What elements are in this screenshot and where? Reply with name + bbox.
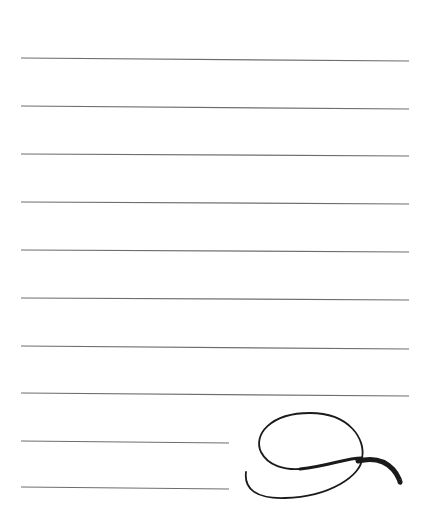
ruled-line: [21, 298, 409, 300]
ruled-line: [21, 393, 409, 396]
ruled-line: [21, 58, 409, 61]
ruled-line: [21, 106, 409, 109]
ruled-lines: [21, 58, 409, 489]
ruled-line: [21, 154, 409, 156]
ruled-line: [21, 250, 409, 252]
ruled-line: [21, 441, 229, 443]
ruled-line: [21, 346, 409, 349]
ruled-line: [21, 202, 409, 204]
notepad-page: [0, 0, 429, 523]
calligraphic-flourish-icon: [246, 413, 400, 498]
ruled-line: [21, 487, 229, 489]
